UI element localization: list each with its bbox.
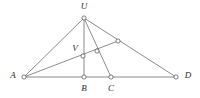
intersection-point [95,49,99,53]
figure-canvas: ABCDUV [0,0,200,98]
label-v: V [72,43,79,53]
edges-group [24,18,176,77]
vertex-b [82,75,86,79]
vertex-v [81,54,85,58]
label-b: B [81,83,87,93]
segment-A-through-V-P-to-Q [24,41,118,77]
labels-group: ABCDUV [9,1,192,93]
vertex-d [174,75,178,79]
vertex-a [22,75,26,79]
label-d: D [184,70,192,80]
geometry-figure: ABCDUV [0,0,200,98]
label-c: C [108,83,115,93]
nodes-group [22,16,178,79]
label-a: A [9,70,16,80]
vertex-c [109,75,113,79]
label-u: U [81,1,88,11]
intersection-point [116,39,120,43]
vertex-u [82,16,86,20]
